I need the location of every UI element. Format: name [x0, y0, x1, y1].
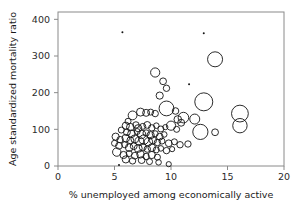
data-point-bubble: [232, 105, 249, 122]
bubble-series: [112, 31, 249, 167]
x-tick-label: 20: [278, 171, 290, 182]
y-tick-label: 200: [32, 87, 50, 98]
data-point-bubble: [151, 68, 160, 77]
plot-frame: [58, 12, 284, 166]
data-point-bubble: [159, 101, 174, 116]
y-tick-label: 400: [32, 14, 50, 25]
y-axis-title: Age standardized mortality ratio: [7, 12, 18, 166]
data-point-bubble: [118, 164, 120, 166]
data-point-bubble: [177, 142, 183, 148]
data-point-bubble: [208, 52, 223, 67]
data-point-bubble: [185, 141, 191, 147]
data-point-bubble: [147, 159, 153, 165]
data-point-bubble: [233, 118, 247, 132]
data-point-bubble: [188, 83, 190, 85]
data-point-bubble: [140, 123, 146, 129]
x-tick-label: 0: [55, 171, 61, 182]
data-point-bubble: [203, 32, 205, 34]
y-tick-label: 0: [44, 160, 50, 171]
scatter-plot-figure: 0100200300400 05101520 % unemployed amon…: [0, 0, 300, 208]
plot-frame-rect: [58, 12, 284, 166]
x-axis-ticks: 05101520: [55, 166, 290, 182]
plot-canvas: 0100200300400 05101520 % unemployed amon…: [0, 0, 300, 208]
y-tick-label: 100: [32, 124, 50, 135]
x-tick-label: 10: [165, 171, 177, 182]
data-point-bubble: [193, 124, 208, 139]
data-point-bubble: [156, 92, 163, 99]
y-axis-ticks: 0100200300400: [32, 14, 58, 172]
y-tick-label: 300: [32, 50, 50, 61]
data-point-bubble: [130, 143, 137, 150]
x-axis-title: % unemployed among economically active: [69, 189, 274, 200]
data-point-bubble: [174, 126, 180, 132]
data-point-bubble: [163, 85, 169, 91]
data-point-bubble: [178, 112, 189, 123]
data-point-bubble: [163, 147, 169, 153]
x-tick-label: 15: [221, 171, 233, 182]
data-point-bubble: [122, 156, 129, 163]
data-point-bubble: [190, 114, 200, 124]
data-point-bubble: [170, 147, 175, 152]
data-point-bubble: [195, 93, 213, 111]
data-point-bubble: [212, 129, 219, 136]
x-tick-label: 5: [111, 171, 117, 182]
data-point-bubble: [160, 78, 167, 85]
data-point-bubble: [121, 31, 123, 33]
